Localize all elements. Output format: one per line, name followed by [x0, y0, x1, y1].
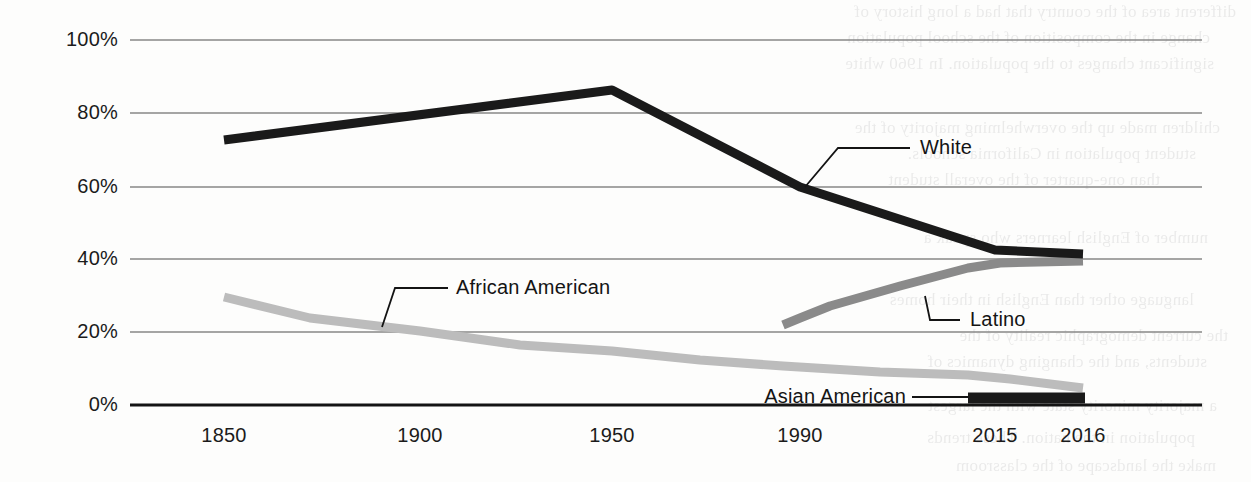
leader-line-white	[805, 148, 910, 187]
x-tick-2015: 2015	[945, 424, 1045, 447]
series-label-asian-american: Asian American	[660, 385, 906, 408]
series-line-african-american	[224, 297, 1083, 388]
y-tick-40: 40%	[26, 247, 118, 270]
chart-container: different area of the country that had a…	[0, 0, 1251, 482]
x-tick-1950: 1950	[562, 424, 662, 447]
x-tick-1850: 1850	[174, 424, 274, 447]
x-tick-2016: 2016	[1033, 424, 1133, 447]
y-tick-100: 100%	[26, 28, 118, 51]
leader-line-african-american	[382, 288, 448, 327]
x-tick-1990: 1990	[750, 424, 850, 447]
y-tick-60: 60%	[26, 175, 118, 198]
series-line-white	[224, 90, 1083, 254]
series-label-latino: Latino	[970, 308, 1026, 331]
series-label-white: White	[920, 136, 972, 159]
y-tick-80: 80%	[26, 101, 118, 124]
gridlines	[130, 40, 1202, 332]
y-tick-20: 20%	[26, 320, 118, 343]
y-tick-0: 0%	[26, 393, 118, 416]
leader-line-latino	[925, 296, 960, 320]
series-line-latino	[783, 261, 1083, 325]
series-label-african-american: African American	[456, 276, 610, 299]
plot-area	[0, 0, 1251, 482]
x-tick-1900: 1900	[370, 424, 470, 447]
